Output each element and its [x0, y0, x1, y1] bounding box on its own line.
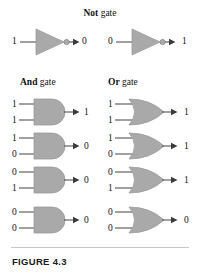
not-gate-heading-rest: gate: [98, 8, 116, 18]
not-gate-case-1: 0 1: [100, 26, 200, 58]
not-gate-case-1-output: 1: [182, 37, 187, 47]
and-gate-row: 1 1 1: [2, 95, 102, 125]
and-gate-heading-rest: gate: [37, 77, 55, 87]
and-gate-symbol: [2, 95, 102, 127]
and-gate-row: 0 0 0: [2, 203, 102, 233]
or-gate-row: 1 0 1: [100, 129, 200, 159]
not-gate-case-0-input: 1: [12, 37, 17, 47]
not-gate-symbol: [2, 26, 102, 58]
or-gate-symbol: [100, 203, 200, 235]
not-gate-case-0-output: 0: [82, 37, 87, 47]
and-gate-symbol: [2, 129, 102, 161]
and-gate-symbol: [2, 163, 102, 195]
or-gate-symbol: [100, 163, 200, 195]
or-gate-row: 1 1 1: [100, 95, 200, 125]
not-gate-heading-bold: Not: [84, 8, 99, 18]
or-gate-heading-rest: gate: [120, 77, 138, 87]
and-gate-symbol: [2, 203, 102, 235]
not-gate-case-1-input: 0: [108, 37, 113, 47]
not-gate-heading: Not gate: [0, 9, 200, 19]
logic-gates-figure: Not gate 1 0 0 1 And gate: [0, 0, 200, 277]
figure-caption: FIGURE 4.3: [12, 256, 67, 267]
not-gate-case-0: 1 0: [2, 26, 102, 58]
and-gate-heading-bold: And: [20, 77, 37, 87]
figure-divider: [11, 247, 189, 248]
or-gate-row: 0 1 1: [100, 163, 200, 193]
or-gate-heading: Or gate: [108, 78, 138, 88]
or-gate-heading-bold: Or: [108, 77, 120, 87]
and-gate-heading: And gate: [20, 78, 56, 88]
and-gate-row: 0 1 0: [2, 163, 102, 193]
and-gate-row: 1 0 0: [2, 129, 102, 159]
or-gate-row: 0 0 0: [100, 203, 200, 233]
or-gate-symbol: [100, 129, 200, 161]
or-gate-symbol: [100, 95, 200, 127]
